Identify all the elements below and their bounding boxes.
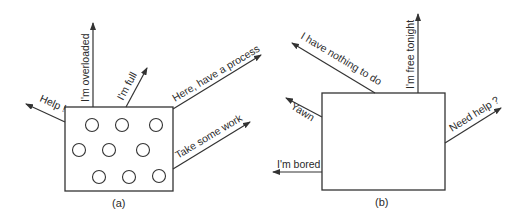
process-icon bbox=[93, 171, 106, 184]
process-icon bbox=[123, 171, 136, 184]
process-icon bbox=[150, 119, 163, 132]
process-icon bbox=[116, 119, 129, 132]
process-icon bbox=[137, 144, 150, 157]
full-label: I'm full bbox=[114, 70, 139, 102]
panel-b: I have nothing to do I'm free tonight Ya… bbox=[273, 14, 501, 208]
help-label: Help ! bbox=[38, 92, 68, 114]
overloaded-label: I'm overloaded bbox=[79, 33, 91, 102]
process-icon bbox=[153, 170, 166, 183]
load-balancing-diagram: Help ! I'm overloaded I'm full Here, hav… bbox=[0, 0, 522, 220]
bored-label: I'm bored bbox=[277, 158, 321, 170]
nothing-to-do-label: I have nothing to do bbox=[299, 29, 384, 87]
process-icon bbox=[86, 119, 99, 132]
panel-a-caption: (a) bbox=[112, 197, 125, 209]
panel-b-caption: (b) bbox=[375, 196, 388, 208]
panel-a: Help ! I'm overloaded I'm full Here, hav… bbox=[26, 23, 262, 209]
process-icon bbox=[103, 144, 116, 157]
take-work-label: Take some work bbox=[173, 111, 245, 161]
free-tonight-label: I'm free tonight bbox=[404, 20, 416, 89]
process-icon bbox=[73, 144, 86, 157]
have-process-label: Here, have a process bbox=[170, 42, 262, 104]
process-circles bbox=[73, 119, 166, 184]
have-process-arrow bbox=[173, 55, 261, 109]
idle-machine-box bbox=[322, 93, 445, 190]
yawn-label: Yawn bbox=[289, 100, 317, 124]
